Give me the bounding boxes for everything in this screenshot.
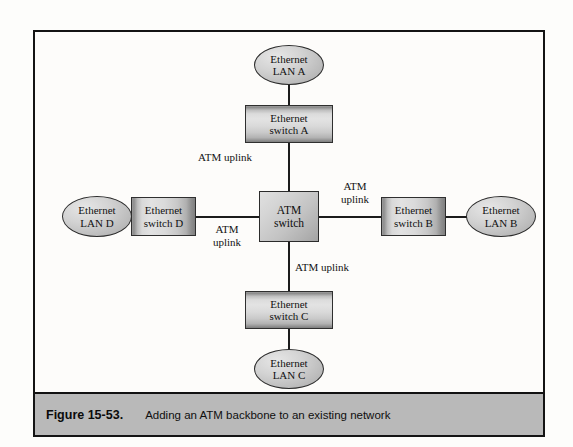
connector-switch-a-to-atm bbox=[288, 142, 290, 192]
scanned-page-background: Ethernet LAN A Ethernet switch A ATM upl… bbox=[0, 0, 573, 447]
ethernet-switch-a[interactable]: Ethernet switch A bbox=[245, 105, 333, 143]
ethernet-switch-b[interactable]: Ethernet switch B bbox=[381, 197, 446, 236]
uplink-label-c: ATM uplink bbox=[295, 261, 349, 274]
connector-lan-a-to-switch-a bbox=[288, 84, 290, 106]
uplink-label-d: ATM uplink bbox=[203, 223, 251, 248]
uplink-label-b: ATM uplink bbox=[331, 180, 379, 205]
lan-b-label-line2: LAN B bbox=[485, 217, 518, 230]
switch-c-label-line1: Ethernet bbox=[270, 298, 307, 311]
figure-frame: Ethernet LAN A Ethernet switch A ATM upl… bbox=[33, 30, 545, 437]
lan-node-b[interactable]: Ethernet LAN B bbox=[466, 196, 536, 237]
atm-switch-label-line1: ATM bbox=[277, 204, 301, 217]
uplink-b-line2: uplink bbox=[331, 193, 379, 206]
switch-b-label-line1: Ethernet bbox=[395, 204, 432, 217]
atm-switch-label-line2: switch bbox=[274, 217, 304, 230]
lan-a-label-line1: Ethernet bbox=[270, 53, 307, 66]
lan-b-label-line1: Ethernet bbox=[482, 204, 519, 217]
ethernet-switch-c[interactable]: Ethernet switch C bbox=[245, 291, 333, 329]
connector-switch-c-to-lan-c bbox=[288, 328, 290, 350]
lan-d-label-line1: Ethernet bbox=[78, 204, 115, 217]
switch-d-label-line2: switch D bbox=[144, 217, 183, 230]
ethernet-switch-d[interactable]: Ethernet switch D bbox=[131, 197, 196, 236]
connector-atm-to-switch-b bbox=[318, 216, 382, 218]
uplink-d-line1: ATM bbox=[203, 223, 251, 236]
atm-switch-node[interactable]: ATM switch bbox=[259, 191, 319, 242]
uplink-label-a: ATM uplink bbox=[198, 151, 252, 164]
uplink-d-line2: uplink bbox=[203, 236, 251, 249]
lan-c-label-line2: LAN C bbox=[273, 369, 306, 382]
switch-d-label-line1: Ethernet bbox=[145, 204, 182, 217]
connector-switch-d-to-atm bbox=[195, 216, 259, 218]
lan-node-c[interactable]: Ethernet LAN C bbox=[254, 349, 324, 389]
figure-caption-number: Figure 15-53. bbox=[46, 408, 123, 422]
lan-node-a[interactable]: Ethernet LAN A bbox=[254, 45, 324, 85]
switch-b-label-line2: switch B bbox=[394, 217, 433, 230]
network-diagram: Ethernet LAN A Ethernet switch A ATM upl… bbox=[35, 32, 543, 392]
lan-c-label-line1: Ethernet bbox=[270, 357, 307, 370]
figure-caption-bar: Figure 15-53. Adding an ATM backbone to … bbox=[35, 392, 543, 435]
figure-caption-text: Adding an ATM backbone to an existing ne… bbox=[145, 409, 390, 421]
lan-a-label-line2: LAN A bbox=[273, 65, 306, 78]
uplink-b-line1: ATM bbox=[331, 180, 379, 193]
connector-switch-b-to-lan-b bbox=[445, 216, 467, 218]
switch-a-label-line1: Ethernet bbox=[270, 112, 307, 125]
switch-a-label-line2: switch A bbox=[270, 124, 309, 137]
connector-atm-to-switch-c bbox=[288, 242, 290, 292]
switch-c-label-line2: switch C bbox=[270, 310, 309, 323]
lan-node-d[interactable]: Ethernet LAN D bbox=[62, 196, 132, 237]
lan-d-label-line2: LAN D bbox=[80, 217, 113, 230]
